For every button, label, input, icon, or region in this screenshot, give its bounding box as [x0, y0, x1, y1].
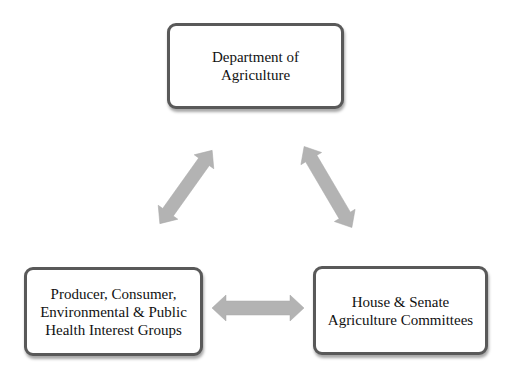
diagram-canvas: Department of Agriculture Producer, Cons…: [0, 0, 519, 378]
double-arrow-left-right-icon: [212, 295, 304, 321]
node-congressional-committees: House & Senate Agriculture Committees: [313, 266, 488, 355]
double-arrow-top-left-icon: [150, 143, 222, 230]
node-label: Producer, Consumer, Environmental & Publ…: [40, 285, 187, 339]
node-interest-groups: Producer, Consumer, Environmental & Publ…: [24, 267, 203, 356]
node-label: Department of Agriculture: [212, 48, 299, 84]
node-label: House & Senate Agriculture Committees: [328, 293, 473, 329]
node-department-of-agriculture: Department of Agriculture: [167, 23, 344, 109]
double-arrow-top-right-icon: [294, 140, 362, 233]
